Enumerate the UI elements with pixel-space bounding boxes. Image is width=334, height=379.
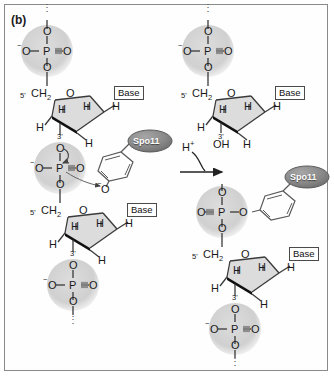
atom-label-ring-o: O: [66, 88, 75, 99]
atom-label-ch2: CH2: [41, 205, 61, 219]
atom-label-p: P: [204, 46, 211, 57]
base-label-box: Base: [114, 86, 144, 100]
atom-label-o: O: [22, 46, 31, 57]
atom-label-o: O: [89, 280, 98, 291]
atom-label-o: O: [218, 223, 227, 234]
carbon-position-3prime: 3': [232, 294, 238, 302]
ch2-text: CH: [192, 87, 208, 99]
atom-label-h: H: [233, 265, 241, 276]
atom-label-p: P: [231, 324, 238, 335]
base-label-box: Base: [127, 203, 157, 217]
charge-label-minus: −: [178, 42, 182, 50]
atom-label-o: O: [69, 296, 78, 307]
atom-label-ch2: CH2: [192, 88, 212, 102]
atom-label-h: H: [125, 218, 133, 229]
atom-label-h: H: [83, 101, 91, 112]
atom-label-o: O: [197, 207, 206, 218]
atom-label-o: O: [231, 304, 240, 315]
atom-label-o: O: [224, 46, 233, 57]
atom-label-o: O: [239, 207, 248, 218]
atom-label-o: O: [56, 143, 65, 154]
ch2-text: CH: [41, 204, 57, 216]
panel-label: (b): [11, 14, 26, 26]
atom-label-o: O: [210, 324, 219, 335]
atom-label-h: H: [71, 221, 79, 232]
atom-label-h: H: [244, 101, 252, 112]
atom-label-o: O: [35, 163, 44, 174]
atom-label-o: O: [56, 179, 65, 190]
dna-continuation-dots-left-top: ⋮: [42, 6, 52, 11]
atom-label-o: O: [69, 260, 78, 271]
base-label-box: Base: [289, 247, 319, 261]
ch2-subscript: 2: [208, 93, 212, 102]
atom-label-p: P: [218, 207, 225, 218]
charge-label-minus: −: [43, 276, 47, 284]
atom-label-h: H: [273, 101, 281, 112]
atom-label-h: H: [211, 283, 219, 294]
atom-label-h: H: [58, 104, 66, 115]
charge-label-minus: −: [17, 42, 21, 50]
atom-label-ring-o: O: [241, 249, 250, 260]
atom-label-h: H: [243, 139, 251, 150]
atom-label-h: H: [219, 104, 227, 115]
charge-label-minus: −: [205, 320, 209, 328]
atom-label-o-leaving: O: [101, 184, 110, 195]
atom-label-h: H: [85, 138, 93, 149]
carbon-position-5prime: 5': [30, 209, 36, 217]
carbon-position-3prime: 3': [57, 133, 63, 141]
ch2-text: CH: [31, 87, 47, 99]
atom-label-o: O: [76, 163, 85, 174]
atom-label-o: O: [183, 46, 192, 57]
atom-label-o: O: [43, 26, 52, 37]
atom-label-p: P: [56, 163, 63, 174]
reaction-arrow-curve-hplus: [192, 152, 205, 171]
atom-label-h: H: [49, 239, 57, 250]
spo11-label-right: Spo11: [290, 172, 317, 182]
figure-panel: (b) ⋮ O − O P O O 5' CH2 O H H H H 3' H …: [0, 0, 334, 379]
atom-label-ch2: CH2: [31, 88, 51, 102]
atom-label-ring-o: O: [227, 88, 236, 99]
atom-label-o: O: [63, 46, 72, 57]
atom-label-p: P: [69, 280, 76, 291]
atom-label-o: O: [204, 62, 213, 73]
hydroxyl-label-3prime: OH: [213, 139, 230, 150]
dna-continuation-dots-right-top: ⋮: [203, 6, 213, 11]
proton-text: H: [182, 141, 190, 153]
atom-label-o: O: [204, 26, 213, 37]
atom-label-h: H: [36, 122, 44, 133]
atom-label-o: O: [48, 280, 57, 291]
carbon-position-5prime: 5': [181, 92, 187, 100]
proton-charge: +: [190, 139, 194, 148]
atom-label-o: O: [251, 324, 260, 335]
atom-label-o: O: [218, 187, 227, 198]
atom-label-h: H: [260, 299, 268, 310]
ch2-text: CH: [203, 248, 219, 260]
atom-label-h: H: [258, 262, 266, 273]
atom-label-h: H: [96, 218, 104, 229]
carbon-position-5prime: 5': [192, 253, 198, 261]
charge-label-minus: −: [30, 159, 34, 167]
dna-continuation-dots-right-bottom: ⋮: [230, 360, 240, 365]
atom-label-p: P: [43, 46, 50, 57]
ch2-subscript: 2: [47, 93, 51, 102]
atom-label-h: H: [287, 262, 295, 273]
atom-label-o: O: [231, 340, 240, 351]
carbon-position-3prime: 3': [70, 250, 76, 258]
atom-label-ch2: CH2: [203, 249, 223, 263]
base-label-box: Base: [275, 86, 305, 100]
dna-continuation-dots-left-bottom: ⋮: [68, 318, 78, 323]
atom-label-h: H: [98, 255, 106, 266]
spo11-label-left: Spo11: [133, 136, 160, 146]
reaction-label-proton: H+: [182, 140, 194, 153]
atom-label-h: H: [112, 101, 120, 112]
carbon-position-5prime: 5': [20, 92, 26, 100]
ch2-subscript: 2: [219, 254, 223, 263]
atom-label-ring-o: O: [79, 205, 88, 216]
atom-label-h: H: [197, 122, 205, 133]
atom-label-o: O: [43, 62, 52, 73]
ch2-subscript: 2: [57, 210, 61, 219]
